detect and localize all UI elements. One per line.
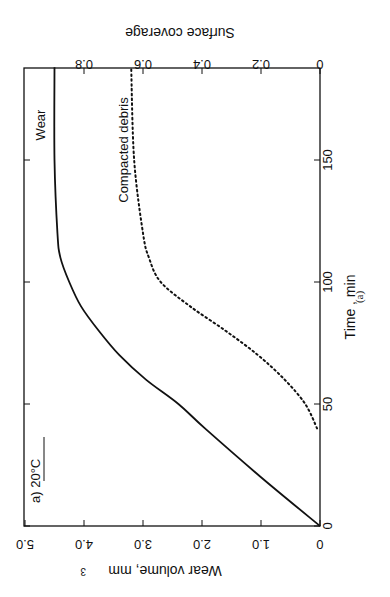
time-tick-label: 50 <box>320 397 335 411</box>
axis-ticks <box>24 68 320 526</box>
coverage-axis-title: Surface coverage <box>125 25 235 41</box>
wear-tick-label: 1.0 <box>252 537 270 552</box>
coverage-tick-label: 0.6 <box>134 57 152 72</box>
wear-axis-title: Wear volume, mm <box>108 563 221 579</box>
coverage-tick-label: 0.8 <box>75 57 93 72</box>
time-tick-label: 100 <box>320 271 335 293</box>
debris-series-label: Compacted debris <box>116 97 131 203</box>
panel-label: a) 20°C <box>28 459 43 503</box>
wear-tick-label: 3.0 <box>134 537 152 552</box>
wear-tick-label: 0 <box>316 537 323 552</box>
plot-border <box>24 68 320 526</box>
series-lines <box>54 67 320 526</box>
time-tick-label: 0 <box>320 522 335 529</box>
wear-tick-label: 2.0 <box>193 537 211 552</box>
wear-chart: 05010015001.02.03.04.05.000.20.40.60.8We… <box>0 0 390 597</box>
time-tick-label: 150 <box>320 149 335 171</box>
wear-tick-label: 4.0 <box>75 537 93 552</box>
wear-tick-label: 5.0 <box>16 537 34 552</box>
figure-caption: (a) <box>353 277 365 317</box>
wear-line <box>54 67 320 526</box>
wear-axis-superscript: 3 <box>80 566 86 577</box>
coverage-tick-label: 0.2 <box>252 57 270 72</box>
compacted-debris-line <box>131 67 317 428</box>
coverage-tick-label: 0 <box>316 57 323 72</box>
wear-series-label: Wear <box>33 109 48 140</box>
coverage-tick-label: 0.4 <box>193 57 211 72</box>
plot-frame <box>24 68 320 526</box>
chart-labels: 05010015001.02.03.04.05.000.20.40.60.8We… <box>16 25 358 579</box>
